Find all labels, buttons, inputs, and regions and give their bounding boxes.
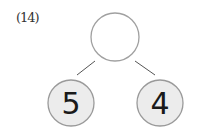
root-answer-circle[interactable] [91,13,139,61]
edge-root-to-left [77,61,95,75]
right-child-value: 4 [150,86,169,121]
number-bond-diagram: 5 4 [0,0,197,135]
left-child-value: 5 [61,86,80,121]
edge-root-to-right [135,61,155,75]
